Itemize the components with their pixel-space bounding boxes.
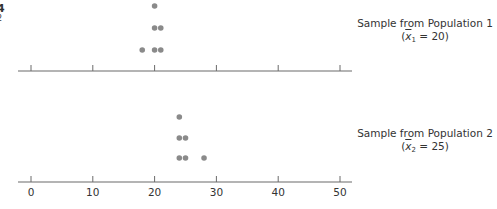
data-point [152, 47, 158, 53]
data-point [201, 155, 207, 161]
data-point [158, 47, 164, 53]
caption-title: Sample from Population 2 [357, 127, 493, 139]
caption-population-1: Sample from Population 1 (x1 = 20) [350, 17, 497, 47]
data-point [177, 114, 183, 120]
data-point [152, 3, 158, 9]
data-point [158, 25, 164, 31]
data-point [183, 155, 189, 161]
caption-population-2: Sample from Population 2 (x2 = 25) [350, 127, 497, 157]
x-tick-label: 40 [266, 186, 290, 198]
caption-mean: (x2 = 25) [350, 140, 497, 157]
x-tick-label: 50 [328, 186, 352, 198]
data-point [183, 135, 189, 141]
x-tick-label: 0 [19, 186, 43, 198]
data-point [152, 25, 158, 31]
x-tick-label: 10 [81, 186, 105, 198]
data-point [139, 47, 145, 53]
caption-title: Sample from Population 1 [357, 17, 493, 29]
x-tick-label: 20 [143, 186, 167, 198]
data-point [177, 135, 183, 141]
caption-mean: (x1 = 20) [350, 30, 497, 47]
x-tick-label: 30 [204, 186, 228, 198]
data-point [177, 155, 183, 161]
